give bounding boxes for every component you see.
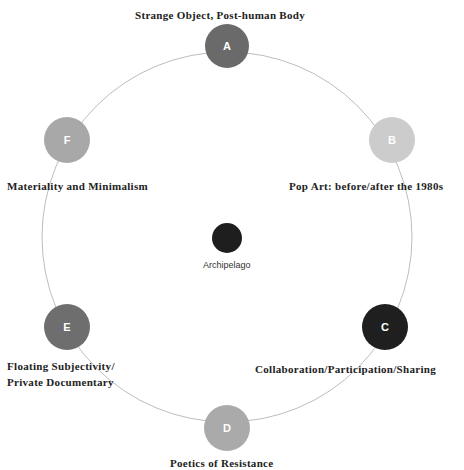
label-e-line2: Private Documentary [7,375,114,389]
node-e-letter: E [63,321,70,333]
center-label: Archipelago [203,260,251,270]
label-e-line1: Floating Subjectivity/ [7,359,115,373]
node-d-letter: D [223,422,231,434]
label-d: Poetics of Resistance [170,456,273,470]
label-b: Pop Art: before/after the 1980s [289,179,443,193]
label-c: Collaboration/Participation/Sharing [255,362,436,376]
node-e[interactable]: E [44,304,90,350]
node-f-letter: F [64,134,71,146]
node-b[interactable]: B [369,117,415,163]
node-d[interactable]: D [204,405,250,451]
label-a: Strange Object, Post-human Body [135,8,305,22]
node-a[interactable]: A [205,24,249,68]
node-f[interactable]: F [44,117,90,163]
node-b-letter: B [388,134,396,146]
node-c[interactable]: C [362,304,408,350]
label-f: Materiality and Minimalism [7,179,148,193]
node-c-letter: C [381,321,389,333]
node-a-letter: A [223,40,231,52]
diagram: Strange Object, Post-human Body A F Mate… [0,0,464,470]
center-node-archipelago[interactable] [212,223,242,253]
